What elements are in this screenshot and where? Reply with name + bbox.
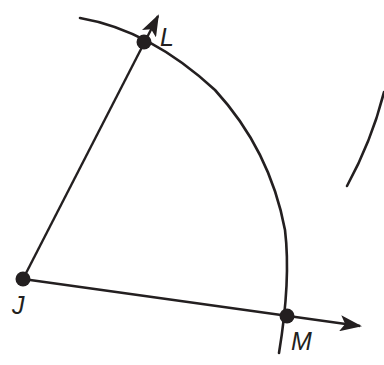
label-l: L: [160, 23, 174, 51]
label-j: J: [11, 291, 25, 319]
ray-jm: [23, 279, 360, 326]
point-j: [16, 272, 31, 287]
point-m: [280, 309, 295, 324]
arc-center-j: [80, 18, 287, 353]
point-l: [137, 35, 152, 50]
label-m: M: [291, 327, 312, 355]
ray-jl: [23, 16, 158, 279]
geometry-diagram: J L M: [0, 0, 384, 365]
arc-fragment-right: [347, 92, 384, 186]
